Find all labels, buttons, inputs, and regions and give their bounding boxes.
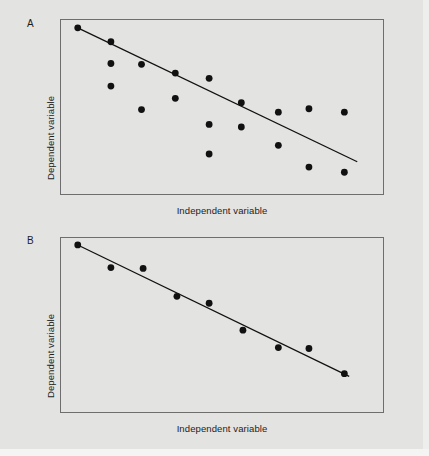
data-point: [275, 344, 282, 351]
data-point: [174, 293, 181, 300]
panel-a-plot-area: [60, 19, 384, 195]
data-point: [108, 264, 115, 271]
data-point: [306, 164, 313, 171]
data-point: [306, 105, 313, 112]
data-point: [238, 124, 245, 131]
data-point: [108, 83, 115, 90]
figure-right-edge: [423, 0, 429, 456]
regression-line: [78, 28, 357, 162]
data-point: [238, 99, 245, 106]
data-point: [172, 70, 179, 77]
data-point: [206, 75, 213, 82]
data-point: [341, 169, 348, 176]
data-point: [341, 109, 348, 116]
data-point: [240, 327, 247, 334]
data-point: [108, 60, 115, 67]
data-point: [138, 61, 145, 68]
data-point: [206, 300, 213, 307]
figure-bottom-edge: [0, 449, 429, 456]
panel-b-y-axis-label: Dependent variable: [45, 314, 56, 398]
data-point: [206, 121, 213, 128]
panel-b-x-axis-label: Independent variable: [60, 423, 384, 434]
data-point: [341, 370, 348, 377]
data-point: [206, 151, 213, 158]
data-point: [172, 95, 179, 102]
panel-label-b: B: [27, 236, 34, 246]
regression-line: [78, 245, 349, 376]
data-point: [275, 109, 282, 116]
panel-a-scatter-plot: [61, 20, 383, 194]
data-point: [275, 142, 282, 149]
panel-b-scatter-plot: [61, 238, 383, 412]
panel-a-x-axis-label: Independent variable: [60, 205, 384, 216]
panel-b-plot-area: [60, 237, 384, 413]
data-point: [108, 38, 115, 45]
panel-label-a: A: [27, 19, 34, 29]
figure-container: A Dependent variable Independent variabl…: [0, 0, 429, 456]
data-point: [74, 242, 81, 249]
data-point: [306, 345, 313, 352]
data-point: [138, 106, 145, 113]
data-point: [140, 265, 147, 272]
panel-a-y-axis-label: Dependent variable: [45, 96, 56, 180]
data-point: [74, 24, 81, 31]
